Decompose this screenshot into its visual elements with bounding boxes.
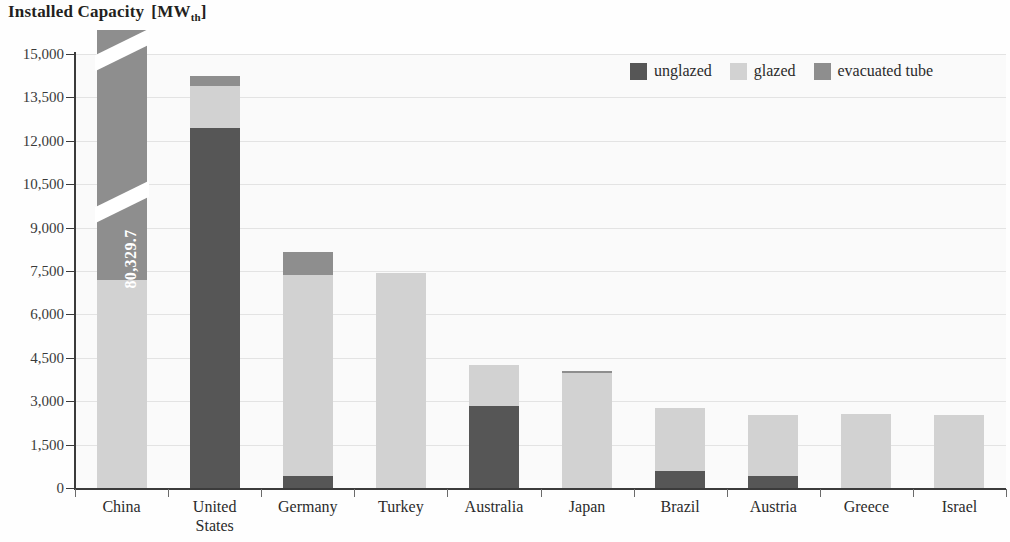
bar-segment-unglazed [190, 128, 240, 488]
bar-segment-glazed [748, 415, 798, 476]
legend-label: glazed [754, 62, 796, 80]
x-axis-label-brazil: Brazil [634, 497, 727, 516]
bar-segment-glazed [841, 414, 891, 488]
x-axis-tick [634, 489, 635, 497]
x-axis-tick [354, 489, 355, 497]
chart-legend: unglazedglazedevacuated tube [630, 62, 942, 80]
x-axis-label-germany: Germany [261, 497, 354, 516]
x-axis-tick [820, 489, 821, 497]
bar-segment-glazed [97, 280, 147, 488]
bar-segment-unglazed [655, 471, 705, 488]
bar-segment-evacuated-tube [283, 252, 333, 275]
x-axis-tick [168, 489, 169, 497]
x-axis-label-australia: Australia [447, 497, 540, 516]
x-axis-label-austria: Austria [727, 497, 820, 516]
bar-brazil[interactable] [655, 408, 705, 488]
x-axis-label-turkey: Turkey [354, 497, 447, 516]
bar-segment-glazed [934, 415, 984, 488]
x-axis-label-israel: Israel [913, 497, 1006, 516]
bar-israel[interactable] [934, 415, 984, 488]
x-axis-tick [75, 489, 76, 497]
bar-segment-glazed [655, 408, 705, 471]
x-axis-tick [261, 489, 262, 497]
legend-swatch-glazed [730, 63, 747, 80]
bar-segment-unglazed [748, 476, 798, 488]
x-axis-label-japan: Japan [541, 497, 634, 516]
x-axis-label-united-states: UnitedStates [168, 497, 261, 535]
bar-segment-glazed [469, 365, 519, 406]
bar-united-states[interactable] [190, 76, 240, 488]
bar-segment-unglazed [283, 476, 333, 488]
bar-turkey[interactable] [376, 273, 426, 488]
bar-greece[interactable] [841, 414, 891, 488]
bar-japan[interactable] [562, 371, 612, 488]
bar-germany[interactable] [283, 252, 333, 488]
legend-item-glazed[interactable]: glazed [730, 62, 796, 80]
chart-container: Installed Capacity[MWth] 15,00013,50012,… [0, 0, 1010, 542]
bar-segment-glazed [376, 273, 426, 488]
legend-item-unglazed[interactable]: unglazed [630, 62, 712, 80]
bar-segment-glazed [562, 373, 612, 488]
x-axis-tick [1006, 489, 1007, 497]
x-axis-tick [541, 489, 542, 497]
bar-segment-glazed [190, 86, 240, 127]
bar-austria[interactable] [748, 415, 798, 488]
legend-swatch-unglazed [630, 63, 647, 80]
x-axis-label-china: China [75, 497, 168, 516]
x-axis-tick [913, 489, 914, 497]
y-axis-tick [66, 488, 75, 489]
legend-label: unglazed [654, 62, 712, 80]
x-axis-label-greece: Greece [820, 497, 913, 516]
bar-australia[interactable] [469, 365, 519, 488]
bar-segment-unglazed [469, 406, 519, 488]
bar-china[interactable]: 80,329.7 [97, 30, 147, 488]
legend-item-evacuated-tube[interactable]: evacuated tube [814, 62, 934, 80]
x-axis-tick [727, 489, 728, 497]
x-axis-tick [447, 489, 448, 497]
bar-segment-evacuated-tube [562, 371, 612, 373]
legend-swatch-evacuated-tube [814, 63, 831, 80]
legend-label: evacuated tube [838, 62, 934, 80]
bar-segment-glazed [283, 275, 333, 476]
bar-segment-evacuated-tube [190, 76, 240, 87]
